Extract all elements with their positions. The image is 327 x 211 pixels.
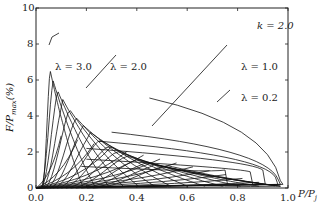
annotation-lambda-1: λ = 1.0 bbox=[241, 62, 278, 72]
annotation-lambda-2: λ = 2.0 bbox=[110, 62, 147, 72]
y-axis-label-sub: max bbox=[10, 100, 18, 115]
annotation-lambda-3: λ = 3.0 bbox=[55, 62, 92, 72]
x-tick-label: 0.6 bbox=[179, 193, 195, 203]
y-tick-label: 10 bbox=[22, 3, 35, 13]
x-tick-label: 0.4 bbox=[129, 193, 145, 203]
curve bbox=[36, 136, 61, 188]
y-axis-label-text: F/P bbox=[4, 115, 15, 132]
y-tick-label: 6 bbox=[27, 75, 33, 85]
y-axis-label-unit: (%) bbox=[4, 83, 15, 100]
curve bbox=[43, 100, 124, 189]
y-axis-label: F/Pmax(%) bbox=[4, 83, 18, 132]
annotation-lambda-02: λ = 0.2 bbox=[241, 93, 278, 103]
y-tick-label: 4 bbox=[27, 111, 33, 121]
x-tick-label: 0.8 bbox=[230, 193, 246, 203]
x-tick-label: 1.0 bbox=[280, 193, 296, 203]
x-axis-label: P/Pj bbox=[298, 189, 317, 203]
x-tick-label: 0.0 bbox=[28, 193, 44, 203]
x-tick-label: 0.2 bbox=[78, 193, 94, 203]
annotation-k: k = 2.0 bbox=[257, 21, 294, 31]
curve-family bbox=[36, 72, 283, 189]
curve bbox=[81, 166, 227, 187]
y-tick-label: 2 bbox=[27, 147, 33, 157]
x-axis-label-text: P/P bbox=[298, 188, 315, 199]
y-tick-label: 8 bbox=[27, 39, 33, 49]
chart-canvas bbox=[0, 0, 327, 211]
x-axis-label-sub: j bbox=[315, 194, 317, 202]
annotation-arrows bbox=[49, 33, 230, 126]
